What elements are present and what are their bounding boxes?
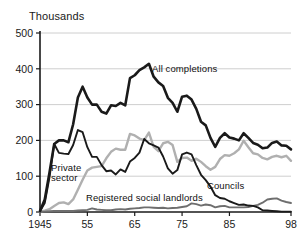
y-tick-label: 400 (15, 63, 33, 75)
x-tick-label: 98 (285, 218, 297, 230)
series-label-private-sector: Private sector (51, 163, 81, 183)
y-axis-ticks-group: 0100200300400500 (15, 27, 40, 218)
data-series-group (40, 64, 291, 212)
x-tick-label: 75 (176, 218, 188, 230)
y-tick-label: 300 (15, 98, 33, 110)
y-tick-label: 0 (27, 206, 33, 218)
chart-figure: Thousands 0100200300400500 1945556575859… (0, 0, 306, 247)
series-label-councils: Councils (207, 180, 244, 191)
line-chart: 0100200300400500 19455565758598 (0, 0, 306, 247)
x-tick-label: 1945 (28, 218, 52, 230)
series-label-registered-social-landlords: Registered social landlords (86, 192, 203, 203)
private-sector-label-line-2: sector (51, 173, 81, 183)
y-tick-label: 100 (15, 170, 33, 182)
axis-lines-group (40, 31, 291, 212)
x-tick-label: 85 (224, 218, 236, 230)
x-axis-ticks-group: 19455565758598 (28, 212, 297, 230)
y-tick-label: 500 (15, 27, 33, 39)
x-tick-label: 65 (129, 218, 141, 230)
series-label-all-completions: All completions (152, 63, 217, 74)
y-tick-label: 200 (15, 134, 33, 146)
x-tick-label: 55 (82, 218, 94, 230)
